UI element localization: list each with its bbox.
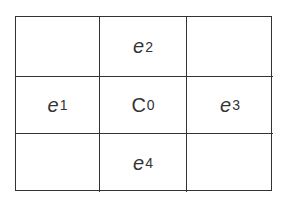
cell-bottom-left [16,134,100,192]
symbol: e [133,35,144,58]
symbol: C [131,94,145,117]
cell-middle-left: e1 [16,77,100,134]
cell-bottom-center: e4 [100,134,187,192]
symbol: e [48,94,59,117]
cell-middle-right: e3 [187,77,273,134]
symbol: e [220,94,231,117]
stencil-grid: e2 e1 C0 e3 e4 [15,16,272,191]
subscript: 1 [60,97,68,113]
cell-top-left [16,17,100,77]
cell-center: C0 [100,77,187,134]
subscript: 3 [232,97,240,113]
cell-top-right [187,17,273,77]
cell-top-center: e2 [100,17,187,77]
symbol: e [133,152,144,175]
subscript: 0 [147,97,155,113]
subscript: 4 [145,155,153,171]
cell-bottom-right [187,134,273,192]
subscript: 2 [145,39,153,55]
